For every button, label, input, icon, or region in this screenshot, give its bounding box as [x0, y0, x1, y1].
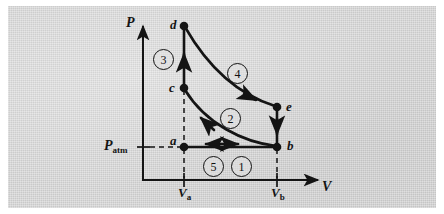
point-dot-d: [180, 22, 189, 31]
point-label-b: b: [287, 139, 294, 152]
patm-subscript: atm: [113, 145, 128, 155]
patm-symbol: P: [104, 138, 113, 153]
point-label-c: c: [169, 81, 175, 94]
process-number-5: 5: [203, 156, 224, 177]
volume-b-tick-label: Vb: [271, 186, 285, 199]
point-dot-e: [273, 103, 282, 112]
process-number-2: 2: [220, 108, 241, 129]
point-label-e: e: [286, 100, 292, 113]
point-dot-c: [180, 84, 189, 93]
volume-a-tick-label: Va: [178, 186, 191, 199]
pressure-axis-label: P: [126, 16, 135, 30]
volume-b-symbol: V: [271, 185, 280, 200]
process-number-1: 1: [231, 156, 252, 177]
point-dot-a: [180, 143, 189, 152]
pressure-atmospheric-label: Patm: [104, 139, 128, 153]
volume-a-symbol: V: [178, 185, 187, 200]
process-number-3: 3: [153, 49, 174, 70]
volume-a-subscript: a: [187, 192, 192, 202]
pv-diagram-figure: P V Patm Va Vb d c a e b 3 4 2 5 1: [0, 0, 444, 214]
process-paths: [184, 27, 277, 147]
volume-b-subscript: b: [280, 192, 285, 202]
point-label-d: d: [170, 18, 177, 31]
point-dot-b: [273, 143, 282, 152]
volume-axis-label: V: [322, 180, 331, 194]
point-label-a: a: [170, 134, 177, 147]
process-number-4: 4: [227, 63, 248, 84]
pv-diagram-canvas: [0, 0, 444, 214]
